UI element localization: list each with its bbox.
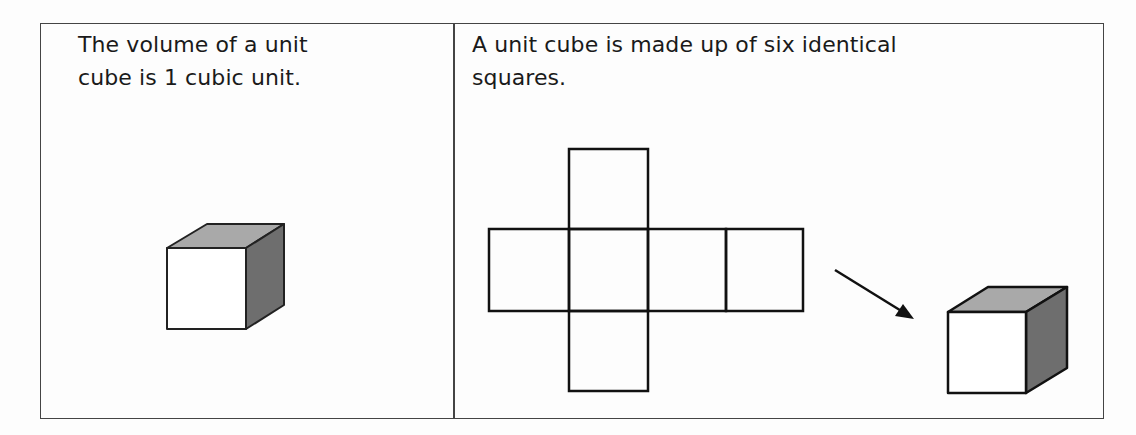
- net-square-right: [648, 229, 726, 311]
- net-square-left: [489, 229, 569, 311]
- cube-front-face: [948, 312, 1026, 393]
- unit-cube-icon: [167, 224, 284, 329]
- net-square-center: [569, 229, 648, 311]
- arrow-icon: [835, 270, 914, 319]
- net-square-far-right: [726, 229, 803, 311]
- unit-cube-icon: [948, 287, 1067, 393]
- net-square-top: [569, 149, 648, 229]
- cube-front-face: [167, 248, 246, 329]
- cube-net-icon: [489, 149, 803, 391]
- net-square-bottom: [569, 311, 648, 391]
